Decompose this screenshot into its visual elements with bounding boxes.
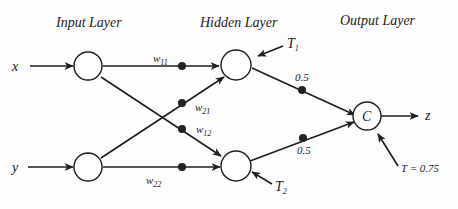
input-node-y: [74, 153, 102, 181]
threshold-t1-label: T1: [287, 36, 299, 53]
neural-network-diagram: Input Layer Hidden Layer Output Layer x …: [0, 0, 458, 209]
threshold-t2-label: T2: [275, 179, 287, 196]
weight-label-w11: w11: [153, 52, 168, 67]
hidden-node-2: [221, 151, 251, 181]
threshold-output-label: T = 0.75: [401, 162, 440, 174]
weight-dot-h1-output: [298, 86, 306, 94]
input-x-label: x: [11, 59, 19, 74]
weight-dot-h2-output: [299, 134, 307, 142]
output-node-label: C: [362, 109, 372, 124]
weight-dot-w12: [178, 125, 186, 133]
hidden-node-1: [221, 50, 251, 80]
input-y-label: y: [10, 160, 19, 175]
threshold-output-arrow: [378, 134, 398, 166]
weight-dot-w21: [178, 99, 186, 107]
weight-label-w22: w22: [146, 174, 161, 189]
threshold-t2-arrow: [252, 172, 272, 184]
output-z-label: z: [424, 108, 431, 123]
weight-label-w12: w12: [196, 123, 211, 138]
input-node-x: [74, 52, 102, 80]
weight-label-w21: w21: [195, 101, 210, 116]
output-layer-title: Output Layer: [340, 13, 416, 28]
hidden-layer-title: Hidden Layer: [199, 15, 278, 30]
weight-label-h1-output: 0.5: [295, 71, 309, 83]
weight-dot-w11: [178, 62, 186, 70]
threshold-t1-arrow: [258, 46, 283, 56]
weight-label-h2-output: 0.5: [297, 144, 311, 156]
input-layer-title: Input Layer: [55, 15, 122, 30]
edge-w12: [101, 77, 221, 156]
weight-dot-w22: [178, 163, 186, 171]
